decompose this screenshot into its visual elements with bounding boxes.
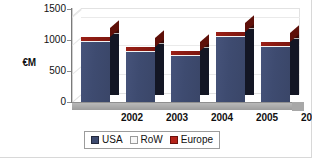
plot-floor-depth	[292, 102, 304, 111]
legend-swatch-europe-icon	[170, 136, 178, 144]
bar-segment-europe-2002	[81, 37, 110, 41]
bar-segment-europe-2006	[261, 42, 290, 46]
bar-segment-usa-2003	[126, 52, 155, 103]
bar-segment-row-2003	[126, 51, 155, 52]
legend-label-row: RoW	[141, 135, 163, 145]
plot-area: 1500 1000 500 0	[36, 8, 304, 118]
bar-2006[interactable]	[261, 34, 290, 103]
legend-swatch-usa-icon	[91, 136, 99, 144]
x-axis-tick-labels: 2002 2003 2004 2005 2006	[72, 112, 312, 126]
bar-segment-usa-2005	[216, 37, 245, 103]
x-tick-label-2005: 2005	[245, 112, 289, 124]
bar-side-usa-2004	[200, 48, 209, 95]
bar-segment-usa-2002	[81, 42, 110, 103]
bar-segment-usa-2006	[261, 47, 290, 103]
bar-segment-europe-2004	[171, 51, 200, 55]
y-tick-label-1500: 1500	[36, 4, 66, 14]
legend-item-usa[interactable]: USA	[91, 135, 123, 145]
plot-floor	[72, 102, 312, 111]
x-tick-label-2006: 2006	[290, 112, 312, 124]
y-tick-label-1000: 1000	[36, 35, 66, 45]
bar-segment-row-2004	[171, 55, 200, 56]
plot-floor-face	[72, 102, 300, 110]
legend-label-usa: USA	[102, 135, 123, 145]
bar-side-usa-2005	[245, 29, 254, 95]
x-tick-label-2002: 2002	[110, 112, 154, 124]
chart-figure: €M 1500 1000 500 0	[0, 0, 312, 158]
bar-2004[interactable]	[171, 43, 200, 103]
x-tick-label-2004: 2004	[200, 112, 244, 124]
bar-segment-europe-2005	[216, 32, 245, 36]
bar-segment-europe-2003	[126, 47, 155, 51]
bar-side-usa-2003	[155, 44, 164, 95]
y-axis-tick-labels: 1500 1000 500 0	[36, 8, 66, 102]
legend-item-row[interactable]: RoW	[130, 135, 163, 145]
y-axis-title: €M	[2, 57, 36, 68]
x-tick-label-2003: 2003	[155, 112, 199, 124]
chart-legend: USA RoW Europe	[84, 131, 220, 149]
bar-side-usa-2006	[290, 39, 299, 95]
legend-label-europe: Europe	[181, 135, 213, 145]
bar-segment-row-2002	[81, 41, 110, 42]
legend-swatch-row-icon	[130, 136, 138, 144]
y-tick-label-500: 500	[36, 66, 66, 76]
bars-layer	[81, 8, 309, 103]
legend-item-europe[interactable]: Europe	[170, 135, 213, 145]
y-tick-label-0: 0	[36, 97, 66, 107]
bar-side-usa-2002	[110, 34, 119, 95]
bar-segment-row-2005	[216, 36, 245, 37]
bar-segment-usa-2004	[171, 56, 200, 103]
bar-2002[interactable]	[81, 29, 110, 103]
plot-left-wall	[72, 8, 81, 102]
bar-segment-row-2006	[261, 46, 290, 47]
bar-2003[interactable]	[126, 39, 155, 103]
bar-2005[interactable]	[216, 24, 245, 103]
